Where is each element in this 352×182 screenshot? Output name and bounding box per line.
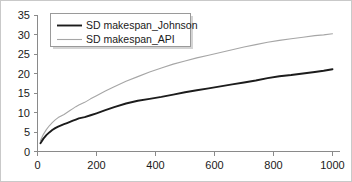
legend-label-sd-makespan-johnson: SD makespan_Johnson — [86, 19, 198, 31]
y-tick-label-0: 0 — [24, 146, 30, 158]
x-axis-ticks — [38, 152, 333, 156]
series-line-sd-makespan-johnson — [40, 69, 332, 143]
chart-figure: 0 5 10 15 20 25 30 35 0 200 400 600 800 … — [0, 0, 352, 182]
y-tick-label-20: 20 — [18, 68, 30, 80]
x-tick-label-400: 400 — [146, 159, 164, 171]
x-tick-label-800: 800 — [264, 159, 282, 171]
y-tick-label-25: 25 — [18, 48, 30, 60]
y-tick-label-35: 35 — [18, 9, 30, 21]
y-axis-ticks — [34, 15, 38, 152]
line-chart: 0 5 10 15 20 25 30 35 0 200 400 600 800 … — [1, 1, 352, 182]
y-tick-label-15: 15 — [18, 87, 30, 99]
x-tick-label-0: 0 — [34, 159, 40, 171]
y-tick-label-10: 10 — [18, 107, 30, 119]
x-tick-label-1000: 1000 — [320, 159, 344, 171]
x-tick-label-600: 600 — [205, 159, 223, 171]
x-tick-label-200: 200 — [87, 159, 105, 171]
chart-legend: SD makespan_Johnson SD makespan_API — [51, 14, 198, 50]
y-tick-label-5: 5 — [24, 126, 30, 138]
y-tick-label-30: 30 — [18, 29, 30, 41]
y-axis-tick-labels: 0 5 10 15 20 25 30 35 — [18, 9, 30, 158]
series-group — [40, 34, 332, 144]
series-line-sd-makespan-api — [40, 34, 332, 141]
legend-label-sd-makespan-api: SD makespan_API — [86, 33, 175, 45]
x-axis-tick-labels: 0 200 400 600 800 1000 — [34, 159, 344, 171]
